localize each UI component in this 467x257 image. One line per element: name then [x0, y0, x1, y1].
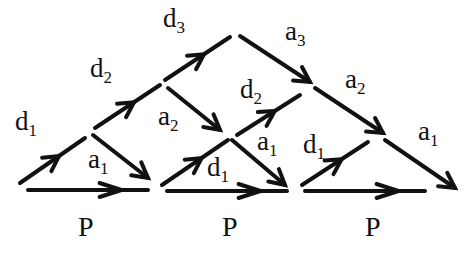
p-label: P — [365, 211, 381, 242]
edge-a1-right — [385, 140, 455, 188]
p-step-2: P — [167, 184, 287, 242]
edge-label-d1: d1 — [15, 106, 37, 140]
p-step-3: P — [305, 184, 425, 242]
edge-d2-left — [95, 85, 160, 128]
edge-label-d3: d3 — [163, 3, 185, 37]
edge-d3 — [165, 37, 230, 80]
edge-a2-right — [315, 88, 383, 133]
edge-label-a1: a1 — [88, 144, 108, 178]
edge-label-a2: a2 — [158, 101, 178, 135]
edge-label-a2: a2 — [345, 64, 365, 98]
edge-label-d1: d1 — [303, 129, 325, 163]
edge-label-a1: a1 — [418, 116, 438, 150]
diagram-svg: PPPd1a1d2a2d3a3d2a1d1a2d1a1 — [0, 0, 467, 257]
p-label: P — [222, 211, 238, 242]
edge-label-a1: a1 — [257, 126, 277, 160]
p-label: P — [78, 211, 94, 242]
edge-label-d1: d1 — [207, 152, 229, 186]
p-step-1: P — [28, 183, 148, 242]
edge-d1-left — [20, 138, 85, 183]
edge-label-d2: d2 — [240, 74, 262, 108]
edge-label-d2: d2 — [90, 53, 112, 87]
arrow-pyramid-diagram: PPPd1a1d2a2d3a3d2a1d1a2d1a1 — [0, 0, 467, 257]
edge-label-a3: a3 — [285, 16, 305, 50]
